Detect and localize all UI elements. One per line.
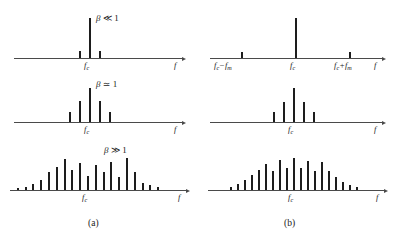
- spectral-line: [89, 18, 91, 58]
- spectrum-panel-beta-approx-one: fcfβ ≃ 1: [0, 78, 198, 140]
- figure-column-b: fcffc−fmfc+fm fcf fcf (b): [198, 0, 396, 245]
- frequency-axis-label: f: [376, 193, 378, 202]
- frequency-axis: [208, 190, 384, 191]
- spectral-line: [230, 187, 232, 190]
- spectral-line: [303, 102, 305, 122]
- spectral-line: [126, 158, 128, 190]
- plot-area: fcfβ ≪ 1: [0, 6, 198, 74]
- axis-arrow-icon: [382, 57, 386, 61]
- frequency-axis-label: f: [178, 193, 180, 202]
- spectral-line: [293, 158, 295, 190]
- axis-arrow-icon: [384, 189, 388, 193]
- spectral-line: [258, 170, 260, 190]
- spectral-line: [273, 112, 275, 122]
- spectral-line: [69, 112, 71, 122]
- spectral-line: [109, 112, 111, 122]
- center-frequency-label: fc: [82, 193, 87, 202]
- plot-area: fcf: [198, 78, 396, 140]
- spectrum-panel-am-carrier-sidebands: fcffc−fmfc+fm: [198, 6, 396, 74]
- spectral-line: [293, 88, 295, 122]
- spectral-line: [272, 171, 274, 190]
- spectral-line: [157, 187, 159, 190]
- modulation-index-label: β ≪ 1: [96, 14, 119, 23]
- frequency-axis: [210, 122, 382, 123]
- spectral-line: [99, 101, 101, 122]
- frequency-axis: [10, 190, 186, 191]
- spectral-line: [87, 176, 89, 190]
- center-frequency-label: fc: [288, 125, 293, 134]
- frequency-axis: [210, 58, 382, 59]
- spectrum-panel-beta-much-less-than-one: fcfβ ≪ 1: [0, 6, 198, 74]
- spectral-line: [110, 162, 112, 190]
- spectral-line: [32, 184, 34, 190]
- spectral-line: [103, 172, 105, 190]
- spectral-line: [241, 52, 243, 58]
- spectral-line: [17, 188, 19, 190]
- center-frequency-label: fc: [288, 193, 293, 202]
- frequency-axis: [14, 122, 182, 123]
- spectral-line: [40, 180, 42, 190]
- figure-column-a: fcfβ ≪ 1 fcfβ ≃ 1 fcfβ ≫ 1 (a): [0, 0, 198, 245]
- center-frequency-label: fc: [84, 61, 89, 70]
- spectrum-panel-beta-much-greater-than-one: fcfβ ≫ 1: [0, 146, 198, 208]
- frequency-axis-label: f: [174, 125, 176, 134]
- upper-sideband-label: fc+fm: [334, 61, 352, 70]
- frequency-axis-label: f: [174, 61, 176, 70]
- frequency-axis-label: f: [374, 125, 376, 134]
- spectral-line: [237, 184, 239, 190]
- spectral-line: [300, 168, 302, 190]
- spectral-line: [265, 164, 267, 190]
- spectral-line: [283, 102, 285, 122]
- spectral-line: [95, 165, 97, 190]
- plot-area: fcfβ ≫ 1: [0, 146, 198, 208]
- spectrum-panel-two-sideband-pairs: fcf: [198, 78, 396, 140]
- modulation-index-label: β ≃ 1: [96, 80, 118, 89]
- plot-area: fcf: [198, 146, 396, 208]
- spectral-line: [251, 175, 253, 190]
- spectral-line: [142, 183, 144, 190]
- spectral-line: [79, 101, 81, 122]
- lower-sideband-label: fc−fm: [214, 61, 232, 70]
- spectral-line: [295, 18, 297, 58]
- spectral-line: [313, 112, 315, 122]
- frequency-axis-label: f: [374, 61, 376, 70]
- spectral-line: [79, 163, 81, 190]
- axis-arrow-icon: [186, 189, 190, 193]
- figure-root: fcfβ ≪ 1 fcfβ ≃ 1 fcfβ ≫ 1 (a) fcffc−fmf…: [0, 0, 396, 245]
- spectral-line: [342, 182, 344, 190]
- spectral-line: [314, 171, 316, 190]
- spectrum-panel-dense-sidebands: fcf: [198, 146, 396, 208]
- spectral-line: [48, 172, 50, 190]
- spectral-line: [71, 170, 73, 190]
- spectral-line: [64, 159, 66, 190]
- spectral-line: [99, 51, 101, 58]
- modulation-index-label: β ≫ 1: [104, 146, 127, 155]
- spectral-line: [25, 187, 27, 190]
- spectral-line: [134, 172, 136, 190]
- caption-a: (a): [88, 219, 99, 229]
- axis-arrow-icon: [382, 121, 386, 125]
- spectral-line: [356, 187, 358, 190]
- axis-arrow-icon: [182, 57, 186, 61]
- spectral-line: [307, 161, 309, 190]
- spectral-line: [244, 180, 246, 190]
- spectral-line: [56, 167, 58, 190]
- spectral-line: [149, 185, 151, 190]
- spectral-line: [118, 177, 120, 190]
- plot-area: fcfβ ≃ 1: [0, 78, 198, 140]
- spectral-line: [321, 162, 323, 190]
- center-frequency-label: fc: [290, 61, 295, 70]
- spectral-line: [328, 171, 330, 190]
- spectral-line: [286, 168, 288, 190]
- spectral-line: [279, 160, 281, 190]
- spectral-line: [79, 51, 81, 58]
- center-frequency-label: fc: [84, 125, 89, 134]
- spectral-line: [349, 185, 351, 190]
- axis-arrow-icon: [182, 121, 186, 125]
- caption-b: (b): [284, 219, 295, 229]
- spectral-line: [349, 52, 351, 58]
- frequency-axis: [14, 58, 182, 59]
- spectral-line: [335, 177, 337, 190]
- plot-area: fcffc−fmfc+fm: [198, 6, 396, 74]
- spectral-line: [89, 88, 91, 122]
